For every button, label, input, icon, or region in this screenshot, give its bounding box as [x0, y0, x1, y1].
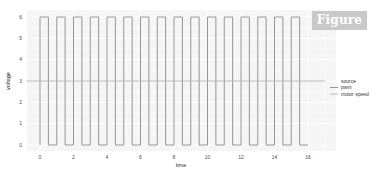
x-tick-label: 0 — [39, 154, 42, 160]
x-tick-label: 16 — [305, 154, 311, 160]
y-tick-label: 0 — [19, 142, 22, 148]
legend-label: pwm — [341, 84, 352, 90]
y-tick-label: 1 — [19, 120, 22, 126]
y-tick-label: 5 — [19, 35, 22, 41]
legend-label: motor speed — [341, 91, 369, 97]
x-tick-label: 14 — [272, 154, 278, 160]
x-axis-ticks: 0246810121416 — [39, 154, 311, 160]
x-tick-label: 12 — [238, 154, 244, 160]
y-tick-label: 2 — [19, 99, 22, 105]
x-tick-label: 6 — [139, 154, 142, 160]
x-tick-label: 10 — [205, 154, 211, 160]
y-tick-label: 6 — [19, 14, 22, 20]
y-tick-label: 4 — [19, 56, 22, 62]
y-axis-title: voltage — [5, 72, 11, 90]
x-tick-label: 2 — [72, 154, 75, 160]
x-tick-label: 4 — [106, 154, 109, 160]
y-tick-label: 3 — [19, 78, 22, 84]
y-axis-ticks: 0123456 — [19, 14, 22, 148]
figure-badge: Figure 1 — [312, 11, 367, 30]
x-axis-title: time — [176, 162, 186, 168]
x-tick-label: 8 — [173, 154, 176, 160]
